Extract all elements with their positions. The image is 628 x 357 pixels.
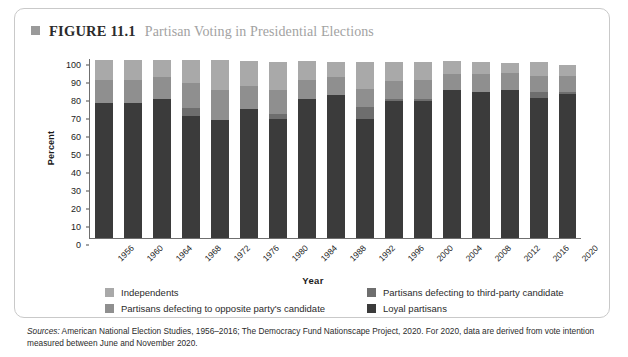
square-bullet-icon	[31, 26, 40, 35]
bar-segment	[124, 103, 142, 238]
bar-segment	[356, 119, 374, 238]
bar-column[interactable]	[211, 59, 229, 238]
bar-segment	[472, 74, 490, 92]
legend-label: Partisans defecting to opposite party's …	[121, 303, 325, 314]
figure-header: FIGURE 11.1 Partisan Voting in President…	[31, 23, 374, 40]
bar-column[interactable]	[298, 59, 316, 238]
legend-swatch-icon	[367, 288, 376, 297]
bar-segment	[356, 89, 374, 107]
y-tick-label: 100	[66, 61, 81, 70]
legend-swatch-icon	[105, 288, 114, 297]
bar-segment	[472, 62, 490, 75]
bar-segment	[559, 76, 577, 92]
bar-segment	[530, 92, 548, 97]
figure-card: FIGURE 11.1 Partisan Voting in President…	[14, 8, 610, 318]
bar-segment	[269, 62, 287, 91]
x-tick-label: 1956	[116, 243, 136, 263]
x-tick-label: 2004	[463, 243, 483, 263]
bar-column[interactable]	[182, 59, 200, 238]
x-tick-label: 1992	[376, 243, 396, 263]
bar-segment	[327, 95, 345, 238]
bar-column[interactable]	[240, 59, 258, 238]
bar-column[interactable]	[269, 59, 287, 238]
bar-segment	[298, 99, 316, 238]
bar-column[interactable]	[385, 59, 403, 238]
legend-item-loyal-partisans: Loyal partisans	[367, 303, 447, 314]
figure-title: Partisan Voting in Presidential Election…	[145, 24, 374, 40]
bar-segment	[443, 61, 461, 75]
bar-segment	[414, 99, 432, 101]
bar-column[interactable]	[327, 59, 345, 238]
y-tick-label: 10	[71, 223, 81, 232]
x-tick-label: 2000	[434, 243, 454, 263]
bar-segment	[298, 80, 316, 100]
bar-segment	[240, 86, 258, 109]
bar-segment	[530, 62, 548, 76]
bar-column[interactable]	[559, 59, 577, 238]
y-axis-title: Percent	[46, 118, 56, 178]
bar-segment	[211, 120, 229, 238]
bar-segment	[211, 60, 229, 90]
bar-segment	[501, 63, 519, 74]
bar-segment	[414, 101, 432, 238]
source-prefix: Sources:	[27, 326, 60, 336]
bar-segment	[327, 62, 345, 77]
plot-frame	[89, 59, 581, 239]
bar-segment	[153, 99, 171, 239]
y-tick-label: 0	[76, 241, 81, 250]
bar-segment	[182, 108, 200, 115]
bar-column[interactable]	[501, 59, 519, 238]
x-tick-label: 2016	[550, 243, 570, 263]
y-tick-label: 20	[71, 205, 81, 214]
y-tick-label: 80	[71, 97, 81, 106]
bar-segment	[530, 98, 548, 238]
bar-segment	[240, 109, 258, 238]
bar-segment	[385, 81, 403, 99]
bar-segment	[559, 65, 577, 76]
y-tick-label: 40	[71, 169, 81, 178]
x-tick-label: 1964	[174, 243, 194, 263]
bar-column[interactable]	[124, 59, 142, 238]
y-tick-label: 60	[71, 133, 81, 142]
x-tick-label: 1984	[319, 243, 339, 263]
bar-segment	[443, 74, 461, 90]
bar-segment	[269, 90, 287, 113]
bar-column[interactable]	[443, 59, 461, 238]
bar-segment	[211, 90, 229, 121]
source-text: American National Election Studies, 1956…	[27, 326, 594, 348]
bar-segment	[414, 62, 432, 80]
bar-segment	[182, 116, 200, 238]
bar-segment	[501, 90, 519, 239]
bar-segment	[240, 61, 258, 86]
legend-item-independents: Independents	[105, 287, 179, 298]
bar-segment	[182, 60, 200, 83]
bar-segment	[95, 80, 113, 103]
bar-column[interactable]	[472, 59, 490, 238]
bar-column[interactable]	[95, 59, 113, 238]
x-tick-label: 1960	[145, 243, 165, 263]
legend-label: Partisans defecting to third-party candi…	[383, 287, 564, 298]
bar-column[interactable]	[153, 59, 171, 238]
bar-segment	[124, 60, 142, 80]
x-tick-label: 2008	[492, 243, 512, 263]
bar-segment	[385, 62, 403, 82]
chart-plot-area: Percent 0102030405060708090100 195619601…	[15, 53, 611, 253]
x-tick-label: 1968	[203, 243, 223, 263]
bar-segment	[182, 83, 200, 108]
bar-segment	[356, 107, 374, 120]
bar-segment	[327, 77, 345, 95]
bar-segment	[414, 80, 432, 100]
x-tick-label: 1972	[232, 243, 252, 263]
bar-segment	[559, 94, 577, 238]
bar-column[interactable]	[414, 59, 432, 238]
y-tick-label: 90	[71, 79, 81, 88]
bar-segment	[356, 62, 374, 89]
bar-column[interactable]	[356, 59, 374, 238]
y-axis-ticks: 0102030405060708090100	[59, 59, 85, 239]
chart-legend: Independents Partisans defecting to oppo…	[15, 287, 611, 319]
bar-segment	[559, 92, 577, 94]
legend-item-defect-opposite: Partisans defecting to opposite party's …	[105, 303, 325, 314]
bar-segment	[124, 80, 142, 103]
bar-column[interactable]	[530, 59, 548, 238]
bar-segment	[298, 61, 316, 80]
